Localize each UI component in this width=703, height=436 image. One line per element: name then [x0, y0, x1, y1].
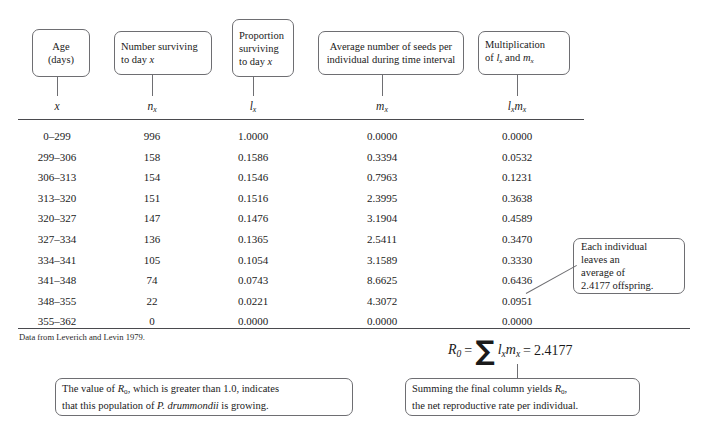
source-note: Data from Leverich and Levin 1979. [19, 332, 145, 342]
cell-lx: 1.0000 [238, 130, 268, 142]
cell-lx: 0.0743 [238, 274, 268, 286]
header-line: to day x [239, 56, 272, 67]
callout-summing-final-column: Summing the final column yields R0, the … [405, 378, 640, 416]
connector-line-age [57, 77, 58, 96]
cell-lxmx: 0.3638 [502, 192, 532, 204]
cell-nx: 105 [144, 254, 161, 266]
cell-lx: 0.1586 [238, 151, 268, 163]
callout-line: Summing the final column yields R0, [412, 383, 567, 394]
equals-sign: = [464, 343, 472, 359]
r0-value: 2.4177 [534, 343, 573, 359]
cell-mx: 4.3072 [367, 295, 397, 307]
cell-lx: 0.0221 [238, 295, 268, 307]
cell-nx: 147 [144, 212, 161, 224]
cell-lx: 0.1516 [238, 192, 268, 204]
header-box-average-seeds: Average number of seeds per individual d… [318, 31, 464, 75]
cell-x: 320–327 [38, 212, 77, 224]
cell-x: 306–313 [38, 171, 77, 183]
header-box-proportion-surviving: Proportion surviving to day x [232, 19, 294, 77]
cell-mx: 0.0000 [367, 315, 397, 327]
connector-line-lxmx [517, 75, 518, 96]
cell-nx: 151 [144, 192, 161, 204]
lxmx-term: lxmx [498, 342, 520, 359]
callout-line: average of [581, 267, 625, 278]
cell-nx: 74 [147, 274, 158, 286]
cell-lx: 0.1476 [238, 212, 268, 224]
cell-mx: 2.3995 [367, 192, 397, 204]
callout-line: that this population of P. drummondii is… [62, 400, 269, 411]
leader-line-summing [517, 364, 518, 379]
header-line: to day x [121, 54, 154, 65]
cell-x: 313–320 [38, 192, 77, 204]
cell-nx: 154 [144, 171, 161, 183]
callout-line: The value of R0, which is greater than 1… [62, 383, 279, 394]
connector-line-lx [253, 77, 254, 96]
table-row: 320–3271470.14763.19040.4589 [0, 212, 703, 233]
cell-mx: 2.5411 [367, 233, 397, 245]
column-symbol-row: x nx lx mx lxmx [0, 100, 703, 116]
cell-nx: 0 [149, 315, 155, 327]
table-row: 348–355220.02214.30720.0951 [0, 295, 703, 316]
header-line: surviving [239, 43, 279, 54]
column-symbol-mx: mx [376, 100, 388, 114]
cell-lx: 0.1546 [238, 171, 268, 183]
callout-line: leaves an [581, 254, 620, 265]
r0-symbol: R0 [448, 342, 461, 359]
table-row: 0–2999961.00000.00000.0000 [0, 130, 703, 151]
cell-lxmx: 0.3470 [502, 233, 532, 245]
cell-nx: 996 [144, 130, 161, 142]
table-row: 313–3201510.15162.39950.3638 [0, 192, 703, 213]
header-line: Number surviving [121, 41, 198, 52]
connector-line-nx [152, 75, 153, 96]
column-symbol-lxmx: lxmx [508, 100, 526, 114]
table-row: 299–3061580.15860.33940.0532 [0, 151, 703, 172]
callout-line: the net reproductive rate per individual… [412, 400, 578, 411]
cell-nx: 136 [144, 233, 161, 245]
callout-line: Each individual [581, 241, 647, 252]
table-row: 306–3131540.15460.79630.1231 [0, 171, 703, 192]
callout-r0-interpretation: The value of R0, which is greater than 1… [55, 378, 353, 416]
header-line: individual during time interval [327, 54, 456, 65]
sigma-icon: ∑ [475, 340, 494, 362]
column-symbol-x: x [54, 100, 59, 112]
table-bottom-rule [18, 328, 690, 329]
header-line: of lx and mx [485, 52, 534, 63]
cell-mx: 0.7963 [367, 171, 397, 183]
header-box-multiplication: Multiplication of lx and mx [478, 31, 570, 75]
cell-nx: 22 [147, 295, 158, 307]
cell-x: 0–299 [43, 130, 71, 142]
header-box-number-surviving: Number surviving to day x [114, 31, 212, 75]
cell-lxmx: 0.0000 [502, 130, 532, 142]
cell-lxmx: 0.0000 [502, 315, 532, 327]
header-line: Proportion [239, 30, 284, 41]
equals-sign-2: = [523, 343, 531, 359]
cell-x: 327–334 [38, 233, 77, 245]
callout-line: 2.4177 offspring. [581, 280, 653, 291]
cell-mx: 3.1589 [367, 254, 397, 266]
cell-mx: 8.6625 [367, 274, 397, 286]
cell-x: 299–306 [38, 151, 77, 163]
header-box-age: Age (days) [32, 29, 90, 77]
cell-mx: 0.3394 [367, 151, 397, 163]
cell-lxmx: 0.0532 [502, 151, 532, 163]
header-line: (days) [48, 54, 74, 65]
cell-nx: 158 [144, 151, 161, 163]
header-line: Multiplication [485, 39, 545, 50]
cell-x: 341–348 [38, 274, 77, 286]
cell-x: 348–355 [38, 295, 77, 307]
header-line: Average number of seeds per [330, 41, 452, 52]
cell-lx: 0.1054 [238, 254, 268, 266]
cell-lxmx: 0.3330 [502, 254, 532, 266]
life-table-figure: Age (days) Number surviving to day x Pro… [0, 0, 703, 436]
header-line: Age [52, 41, 70, 52]
cell-x: 355–362 [38, 315, 77, 327]
table-top-rule [18, 119, 584, 120]
connector-line-mx [382, 75, 383, 96]
column-symbol-lx: lx [250, 100, 257, 114]
cell-lxmx: 0.0951 [502, 295, 532, 307]
cell-lxmx: 0.4589 [502, 212, 532, 224]
cell-lxmx: 0.6436 [502, 274, 532, 286]
cell-mx: 3.1904 [367, 212, 397, 224]
cell-lx: 0.1365 [238, 233, 268, 245]
callout-each-individual: Each individual leaves an average of 2.4… [573, 238, 685, 294]
